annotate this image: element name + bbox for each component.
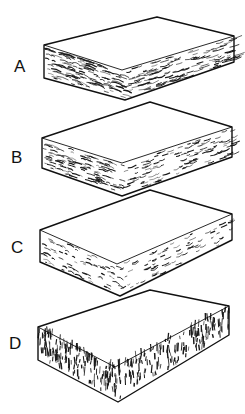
label-b: B — [11, 149, 22, 166]
slab-c — [40, 190, 235, 296]
slab-a — [44, 17, 245, 100]
label-a: A — [14, 58, 25, 75]
label-c: C — [11, 239, 23, 256]
slab-d — [38, 290, 229, 402]
slab-drawing — [0, 0, 245, 414]
label-d: D — [9, 335, 21, 352]
slab-diagram: A B C D — [0, 0, 245, 414]
slab-b — [42, 102, 240, 196]
